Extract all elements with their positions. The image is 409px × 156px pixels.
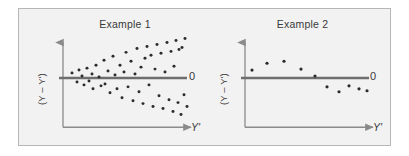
- panel-title-example-2: Example 2: [205, 18, 392, 30]
- x-axis-label-example-2: Y': [373, 121, 382, 133]
- scatter-panel-example-2: Example 2 (Y – Y') Y' 0: [205, 9, 392, 145]
- y-axis-label-example-1: (Y – Y'): [36, 73, 47, 105]
- figure-frame: Example 1 (Y – Y') Y' 0: [18, 8, 391, 146]
- zero-line-label-example-1: 0: [189, 70, 195, 82]
- y-axis-label-example-2: (Y – Y'): [218, 73, 229, 105]
- residual-plot-figure: Example 1 (Y – Y') Y' 0: [0, 0, 409, 156]
- scatter-panel-example-1: Example 1 (Y – Y') Y' 0: [19, 9, 209, 145]
- x-axis-label-example-1: Y': [191, 121, 200, 133]
- zero-line-label-example-2: 0: [370, 70, 376, 82]
- panel-title-example-1: Example 1: [19, 18, 209, 30]
- scatter-points: [250, 60, 368, 94]
- panel-container: Example 1 (Y – Y') Y' 0: [19, 9, 390, 145]
- scatter-points: [71, 37, 189, 116]
